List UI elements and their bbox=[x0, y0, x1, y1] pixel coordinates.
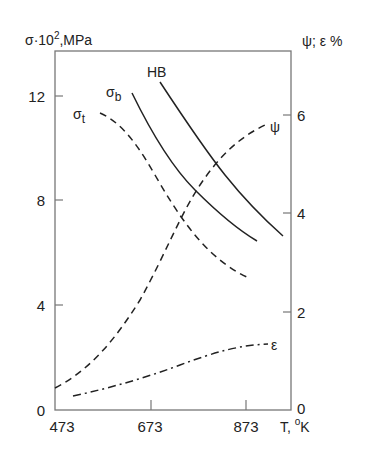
tick-left-0: 0 bbox=[37, 402, 45, 419]
x-axis-title: T, oK bbox=[280, 416, 310, 435]
tick-right-2: 2 bbox=[297, 304, 305, 321]
tick-right-0: 0 bbox=[297, 400, 305, 417]
tick-x-673: 673 bbox=[137, 418, 162, 435]
right-axis-ticks bbox=[283, 115, 291, 312]
curve-sigma-t bbox=[100, 113, 247, 277]
plot-frame bbox=[55, 51, 291, 410]
tick-left-12: 12 bbox=[28, 88, 45, 105]
tick-x-873: 873 bbox=[233, 418, 258, 435]
tick-right-6: 6 bbox=[297, 107, 305, 124]
y-right-title: ψ; ε % bbox=[302, 33, 342, 49]
tick-left-4: 4 bbox=[37, 297, 45, 314]
label-hb: HB bbox=[147, 64, 166, 80]
tick-right-4: 4 bbox=[297, 205, 305, 222]
chart: 12 8 4 0 6 4 2 0 473 673 873 σ·102,MPa ψ… bbox=[0, 0, 369, 465]
curve-epsilon bbox=[73, 344, 268, 396]
curve-hb bbox=[160, 82, 283, 236]
tick-x-473: 473 bbox=[49, 418, 74, 435]
label-psi: ψ bbox=[270, 119, 280, 135]
y-left-title: σ·102,MPa bbox=[25, 30, 92, 48]
label-sigma-t: σt bbox=[73, 106, 86, 126]
label-sigma-b: σb bbox=[106, 84, 122, 104]
x-axis-ticks bbox=[151, 400, 246, 410]
tick-left-8: 8 bbox=[37, 192, 45, 209]
left-axis-ticks bbox=[55, 96, 63, 305]
label-epsilon: ε bbox=[271, 337, 277, 353]
